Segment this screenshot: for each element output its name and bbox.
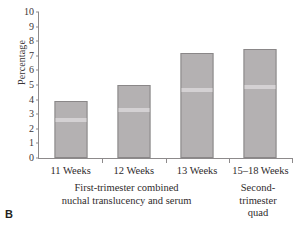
y-tick-label: 5 xyxy=(14,80,34,90)
x-tick-label: 13 Weeks xyxy=(166,164,229,177)
y-tick-label: 9 xyxy=(14,22,34,32)
bar-slot xyxy=(39,12,102,158)
x-tick-mark xyxy=(292,158,293,163)
bar-slot xyxy=(102,12,165,158)
group-caption-line: trimester xyxy=(218,195,298,208)
panel-letter: B xyxy=(5,208,13,220)
bar[interactable] xyxy=(181,53,214,158)
x-axis-tick-labels: 11 Weeks12 Weeks13 Weeks15–18 Weeks xyxy=(39,164,292,178)
bar[interactable] xyxy=(54,101,87,158)
x-tick-mark xyxy=(229,158,230,163)
x-tick-mark xyxy=(102,158,103,163)
x-tick-label: 15–18 Weeks xyxy=(229,164,292,177)
x-tick-label: 11 Weeks xyxy=(39,164,102,177)
y-tick-label: 3 xyxy=(14,109,34,119)
bar-highlight-band xyxy=(182,88,213,92)
bar-slot xyxy=(166,12,229,158)
group-caption-line: quad xyxy=(218,207,298,220)
x-tick-label: 12 Weeks xyxy=(102,164,165,177)
group-caption-first-trimester: First-trimester combinednuchal transluce… xyxy=(34,182,219,207)
y-tick-label: 10 xyxy=(14,7,34,17)
y-tick-label: 2 xyxy=(14,124,34,134)
bar[interactable] xyxy=(117,85,150,158)
bar-slot xyxy=(229,12,292,158)
bar[interactable] xyxy=(244,49,277,159)
group-caption-line: First-trimester combined xyxy=(34,182,219,195)
y-tick-label: 6 xyxy=(14,65,34,75)
bar-chart-figure: Percentage 012345678910 11 Weeks12 Weeks… xyxy=(0,0,298,228)
group-caption-second-trimester: Second-trimesterquad xyxy=(218,182,298,220)
group-caption-line: nuchal translucency and serum xyxy=(34,195,219,208)
y-tick-label: 7 xyxy=(14,51,34,61)
y-tick-label: 4 xyxy=(14,95,34,105)
group-caption-line: Second- xyxy=(218,182,298,195)
plot-area xyxy=(39,12,292,158)
y-axis-tick-labels: 012345678910 xyxy=(14,5,34,165)
y-tick-label: 0 xyxy=(14,153,34,163)
x-axis-line xyxy=(38,158,292,159)
bar-highlight-band xyxy=(55,118,86,122)
y-tick-label: 8 xyxy=(14,36,34,46)
bar-highlight-band xyxy=(118,108,149,112)
x-tick-mark xyxy=(166,158,167,163)
bar-highlight-band xyxy=(245,85,276,89)
y-tick-label: 1 xyxy=(14,138,34,148)
